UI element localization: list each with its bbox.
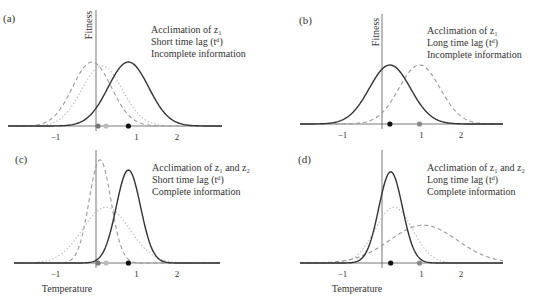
optimum-marker (95, 123, 100, 128)
optimum-marker (104, 260, 109, 265)
annotation-line-3: Incomplete information (427, 49, 522, 60)
x-tick-label: −1 (51, 132, 61, 142)
x-tick-label: 2 (175, 132, 180, 142)
panel-d: (d) −112 Acclimation of z₁ and z₂ Long t… (298, 150, 525, 294)
panel-c: (c) −112 Acclimation of z₁ and z₂ Short … (14, 150, 250, 294)
x-tick-label: 1 (134, 132, 139, 142)
solid-fitness-curve (300, 65, 503, 124)
annotation-line-3: Incomplete information (151, 48, 246, 59)
x-axis-label: Temperature (332, 283, 383, 294)
x-tick-label: −1 (51, 269, 61, 279)
y-axis-label: Fitness (370, 18, 381, 46)
x-ticks: −112 (338, 130, 464, 140)
annotation-line-1: Acclimation of z₁ (151, 24, 222, 35)
annotation-line-1: Acclimation of z₁ and z₂ (427, 162, 525, 173)
y-axis-label: Fitness (83, 11, 94, 39)
dashed-fitness-curve (300, 225, 503, 263)
x-ticks: −112 (338, 269, 464, 279)
optimum-marker (388, 260, 393, 265)
panel-label: (c) (15, 153, 28, 166)
annotation-line-3: Complete information (427, 186, 516, 197)
curves (300, 65, 503, 124)
annotation: Acclimation of z₁ and z₂ Long time lag (… (427, 162, 525, 197)
x-axis-label: Temperature (42, 283, 93, 294)
annotation-line-3: Complete information (152, 186, 241, 197)
optimum-marker (95, 260, 100, 265)
optimum-marker (126, 123, 131, 128)
annotation: Acclimation of z₁ and z₂ Short time lag … (152, 162, 250, 197)
x-tick-label: 2 (459, 130, 464, 140)
x-ticks: −112 (51, 132, 180, 142)
x-tick-label: −1 (338, 269, 348, 279)
optimum-marker (387, 121, 392, 126)
curves (8, 62, 222, 126)
annotation-line-2: Long time lag (tᵈ) (427, 174, 498, 186)
x-tick-label: 1 (134, 269, 139, 279)
x-tick-label: 2 (459, 269, 464, 279)
optimum-marker (104, 123, 109, 128)
annotation: Acclimation of z₁ Short time lag (tᵈ) In… (151, 24, 246, 59)
annotation-line-1: Acclimation of z₁ and z₂ (152, 162, 250, 173)
dotted-fitness-curve (300, 207, 503, 263)
x-tick-label: 1 (419, 130, 424, 140)
panel-a: (a) −112 Fitness Acclimation of z₁ Short… (3, 10, 246, 142)
x-ticks: −112 (51, 269, 180, 279)
optimum-marker (417, 260, 422, 265)
dashed-fitness-curve (8, 62, 222, 126)
annotation-line-2: Short time lag (tᵈ) (151, 36, 223, 48)
optimum-marker (126, 260, 131, 265)
panel-label: (a) (3, 12, 16, 25)
x-tick-label: −1 (338, 130, 348, 140)
annotation: Acclimation of z₁ Long time lag (tᵈ) Inc… (427, 25, 522, 60)
panel-b: (b) −112 Fitness Acclimation of z₁ Long … (299, 14, 522, 140)
x-tick-label: 1 (419, 269, 424, 279)
annotation-line-1: Acclimation of z₁ (427, 25, 498, 36)
x-tick-label: 2 (175, 269, 180, 279)
annotation-line-2: Short time lag (tᵈ) (152, 174, 224, 186)
acclimation-fitness-figure: (a) −112 Fitness Acclimation of z₁ Short… (0, 0, 537, 304)
panel-label: (d) (298, 153, 311, 166)
panel-label: (b) (299, 14, 312, 27)
optimum-marker (417, 121, 422, 126)
dotted-fitness-curve (14, 207, 220, 263)
annotation-line-2: Long time lag (tᵈ) (427, 37, 498, 49)
